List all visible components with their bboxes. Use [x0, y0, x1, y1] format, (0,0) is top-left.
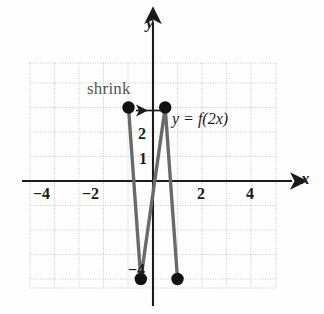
- data-point: [159, 101, 171, 113]
- equation-text: y = f(2x): [172, 110, 228, 127]
- x-tick-4: 4: [246, 186, 254, 202]
- y-axis-label: y: [146, 14, 154, 31]
- data-point: [122, 101, 134, 113]
- x-tick-neg4: −4: [33, 186, 50, 202]
- coordinate-plot: [0, 0, 324, 314]
- shrink-annotation: shrink: [87, 80, 131, 97]
- x-tick-neg2: −2: [82, 186, 99, 202]
- data-point: [171, 273, 183, 285]
- equation-annotation: y = f(2x): [172, 111, 228, 127]
- y-tick-neg4: −4: [128, 262, 145, 278]
- x-tick-2: 2: [197, 186, 205, 202]
- x-axis-label: x: [301, 170, 310, 187]
- y-tick-1: 1: [139, 151, 147, 167]
- y-tick-2: 2: [138, 126, 146, 142]
- graph-figure: shrink y = f(2x) y x −4 −2 2 4 2 1 −4: [0, 0, 324, 314]
